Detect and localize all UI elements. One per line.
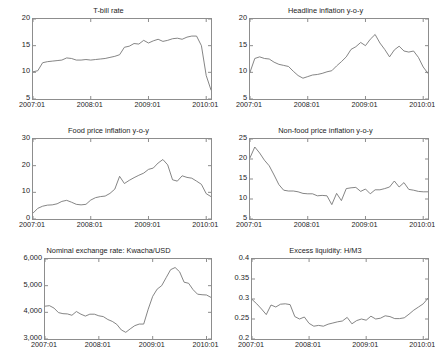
x-tick-label: 2008:01 [294, 221, 320, 229]
y-tick-label: 15 [239, 41, 247, 48]
y-axis-labels-nonfood: 510152025 [217, 138, 247, 220]
plot-area-tbill [32, 18, 212, 100]
y-tick-label: 0.4 [239, 254, 249, 261]
y-tick-label: 20 [239, 154, 247, 161]
panel-headline: Headline inflation y-o-y 5101520 2007:01… [217, 4, 434, 121]
y-tick-label: 25 [239, 134, 247, 141]
panel-title-nonfood: Non-food price inflation y-o-y [217, 126, 434, 135]
x-tick-label: 2007:01 [238, 341, 264, 349]
y-axis-labels-liquidity: 0.20.250.30.350.4 [217, 258, 249, 340]
y-tick-label: 10 [22, 188, 30, 195]
y-tick-label: 10 [22, 68, 30, 75]
y-tick-label: 15 [22, 41, 30, 48]
x-tick-label: 2009:01 [351, 221, 377, 229]
x-tick-label: 2008:01 [77, 221, 103, 229]
series-headline [250, 19, 428, 99]
y-tick-label: 0.25 [235, 314, 249, 321]
x-tick-label: 2008:01 [85, 341, 111, 349]
plot-area-nonfood [249, 138, 429, 220]
y-tick-label: 5,000 [24, 281, 43, 288]
plot-area-headline [249, 18, 429, 100]
y-tick-label: 10 [239, 68, 247, 75]
x-tick-label: 2010:01 [409, 101, 435, 109]
x-tick-label: 2007:01 [236, 221, 262, 229]
y-tick-label: 20 [22, 14, 30, 21]
panel-liquidity: Excess liquidity: H/M3 0.20.250.30.350.4… [217, 244, 434, 361]
x-tick-label: 2009:01 [134, 101, 160, 109]
y-tick-label: 30 [22, 134, 30, 141]
y-tick-label: 0.35 [235, 274, 249, 281]
x-tick-label: 2010:01 [409, 221, 435, 229]
panel-title-food: Food price inflation y-o-y [0, 126, 217, 135]
plot-area-food [32, 138, 212, 220]
panel-title-tbill: T-bill rate [0, 6, 217, 15]
panel-title-liquidity: Excess liquidity: H/M3 [217, 246, 434, 255]
x-tick-label: 2007:01 [19, 101, 45, 109]
y-tick-label: 4,000 [24, 308, 43, 315]
x-tick-label: 2010:01 [192, 101, 218, 109]
plot-area-fx [44, 258, 212, 340]
series-tbill [33, 19, 211, 99]
y-tick-label: 20 [22, 161, 30, 168]
y-tick-label: 0.3 [239, 294, 249, 301]
series-liquidity [252, 259, 428, 339]
x-tick-label: 2007:01 [31, 341, 57, 349]
x-tick-label: 2009:01 [139, 341, 165, 349]
y-tick-label: 20 [239, 14, 247, 21]
x-tick-label: 2008:01 [294, 101, 320, 109]
panel-title-headline: Headline inflation y-o-y [217, 6, 434, 15]
series-fx [45, 259, 211, 339]
y-tick-label: 15 [239, 174, 247, 181]
x-tick-label: 2007:01 [236, 101, 262, 109]
y-axis-labels-headline: 5101520 [217, 18, 247, 100]
panel-nonfood: Non-food price inflation y-o-y 510152025… [217, 124, 434, 241]
x-tick-label: 2010:01 [192, 221, 218, 229]
series-nonfood [250, 139, 428, 219]
plot-area-liquidity [251, 258, 429, 340]
x-tick-label: 2009:01 [351, 101, 377, 109]
series-food [33, 139, 211, 219]
panel-food: Food price inflation y-o-y 0102030 2007:… [0, 124, 217, 241]
y-axis-labels-food: 0102030 [0, 138, 30, 220]
x-tick-label: 2009:01 [134, 221, 160, 229]
x-tick-label: 2007:01 [19, 221, 45, 229]
x-tick-label: 2010:01 [193, 341, 219, 349]
x-tick-label: 2009:01 [352, 341, 378, 349]
x-tick-label: 2008:01 [77, 101, 103, 109]
panel-tbill: T-bill rate 5101520 2007:012008:012009:0… [0, 4, 217, 121]
y-tick-label: 10 [239, 194, 247, 201]
panel-fx: Nominal exchange rate: Kwacha/USD 3,0004… [0, 244, 217, 361]
x-tick-label: 2010:01 [409, 341, 435, 349]
y-axis-labels-fx: 3,0004,0005,0006,000 [0, 258, 42, 340]
y-tick-label: 6,000 [24, 254, 43, 261]
y-axis-labels-tbill: 5101520 [0, 18, 30, 100]
x-tick-label: 2008:01 [295, 341, 321, 349]
